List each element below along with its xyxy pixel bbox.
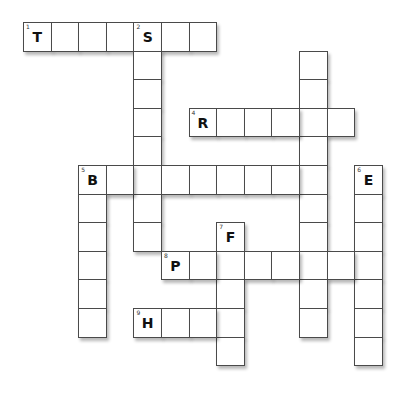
grid-cell[interactable]	[299, 136, 328, 166]
grid-cell[interactable]	[189, 22, 218, 52]
grid-cell[interactable]	[161, 308, 190, 338]
grid-cell[interactable]	[78, 222, 107, 252]
grid-cell[interactable]	[161, 165, 190, 195]
grid-cell[interactable]	[133, 108, 162, 138]
grid-cell[interactable]	[271, 165, 300, 195]
cell-letter: T	[24, 29, 51, 45]
grid-cell[interactable]	[189, 251, 218, 281]
grid-cell[interactable]	[299, 79, 328, 109]
grid-cell[interactable]: 1T	[23, 22, 52, 52]
grid-cell[interactable]: 6E	[354, 165, 383, 195]
grid-cell[interactable]	[216, 337, 245, 367]
grid-cell[interactable]	[299, 251, 328, 281]
grid-cell[interactable]	[78, 308, 107, 338]
grid-cell[interactable]	[133, 194, 162, 224]
grid-cell[interactable]: 5B	[78, 165, 107, 195]
grid-cell[interactable]	[133, 165, 162, 195]
crossword-grid: 1T2S4R5B6E7F8P9H	[0, 0, 407, 393]
grid-cell[interactable]	[133, 79, 162, 109]
grid-cell[interactable]	[78, 22, 107, 52]
grid-cell[interactable]	[299, 279, 328, 309]
cell-letter: E	[355, 172, 382, 188]
grid-cell[interactable]: 2S	[133, 22, 162, 52]
grid-cell[interactable]	[244, 251, 273, 281]
grid-cell[interactable]: 7F	[216, 222, 245, 252]
grid-cell[interactable]	[354, 194, 383, 224]
grid-cell[interactable]	[271, 108, 300, 138]
grid-cell[interactable]	[299, 308, 328, 338]
grid-cell[interactable]	[78, 279, 107, 309]
grid-cell[interactable]	[354, 222, 383, 252]
grid-cell[interactable]	[354, 279, 383, 309]
grid-cell[interactable]	[299, 108, 328, 138]
cell-letter: F	[217, 229, 244, 245]
grid-cell[interactable]	[106, 165, 135, 195]
grid-cell[interactable]	[133, 136, 162, 166]
grid-cell[interactable]	[51, 22, 80, 52]
grid-cell[interactable]	[133, 222, 162, 252]
grid-cell[interactable]: 8P	[161, 251, 190, 281]
grid-cell[interactable]	[244, 165, 273, 195]
cell-letter: R	[190, 115, 217, 131]
grid-cell[interactable]	[299, 51, 328, 81]
grid-cell[interactable]	[327, 251, 356, 281]
grid-cell[interactable]	[354, 308, 383, 338]
grid-cell[interactable]	[354, 251, 383, 281]
grid-cell[interactable]	[161, 22, 190, 52]
grid-cell[interactable]	[327, 108, 356, 138]
grid-cell[interactable]	[299, 194, 328, 224]
grid-cell[interactable]	[106, 22, 135, 52]
grid-cell[interactable]	[216, 308, 245, 338]
grid-cell[interactable]	[299, 222, 328, 252]
grid-cell[interactable]	[189, 165, 218, 195]
grid-cell[interactable]	[133, 51, 162, 81]
grid-cell[interactable]	[354, 337, 383, 367]
grid-cell[interactable]	[216, 251, 245, 281]
cell-letter: P	[162, 258, 189, 274]
grid-cell[interactable]	[216, 165, 245, 195]
grid-cell[interactable]	[189, 308, 218, 338]
grid-cell[interactable]	[78, 194, 107, 224]
cell-letter: S	[134, 29, 161, 45]
grid-cell[interactable]: 9H	[133, 308, 162, 338]
cell-letter: H	[134, 315, 161, 331]
grid-cell[interactable]	[299, 165, 328, 195]
grid-cell[interactable]	[244, 108, 273, 138]
grid-cell[interactable]: 4R	[189, 108, 218, 138]
grid-cell[interactable]	[216, 279, 245, 309]
cell-letter: B	[79, 172, 106, 188]
grid-cell[interactable]	[78, 251, 107, 281]
grid-cell[interactable]	[271, 251, 300, 281]
grid-cell[interactable]	[216, 108, 245, 138]
